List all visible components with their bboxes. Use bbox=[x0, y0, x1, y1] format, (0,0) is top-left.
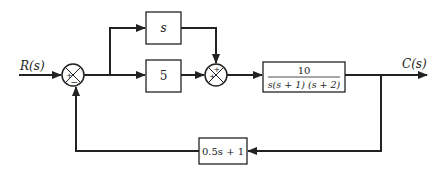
summing-junction-1: + − bbox=[62, 64, 84, 87]
derivative-block-label: s bbox=[160, 21, 166, 35]
feedback-block-label: 0.5s + 1 bbox=[202, 146, 244, 157]
plant-block: 10 s(s + 1) (s + 2) bbox=[263, 62, 345, 92]
feedback-block: 0.5s + 1 bbox=[199, 138, 247, 164]
summing-junction-2: + + bbox=[205, 64, 227, 86]
derivative-branch-line bbox=[110, 28, 145, 75]
derivative-output-line bbox=[181, 28, 216, 63]
feedback-path-left bbox=[76, 87, 199, 151]
block-diagram: + − + + s 5 10 s(s + 1) (s + 2) 0.5s + 1… bbox=[0, 0, 443, 174]
output-label: C(s) bbox=[402, 57, 427, 71]
plant-numerator: 10 bbox=[298, 65, 311, 76]
proportional-block: 5 bbox=[146, 60, 181, 92]
sum2-plus-sign-top: + bbox=[214, 65, 221, 74]
plant-denominator: s(s + 1) (s + 2) bbox=[268, 79, 341, 90]
derivative-block: s bbox=[146, 12, 181, 44]
proportional-block-label: 5 bbox=[160, 69, 168, 83]
sum1-minus-sign: − bbox=[71, 77, 79, 87]
input-label: R(s) bbox=[19, 59, 45, 73]
